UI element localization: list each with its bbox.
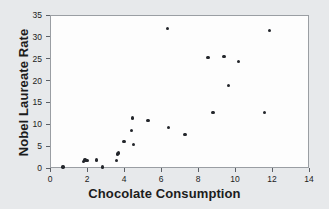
data-point [95,158,98,161]
x-tick-mark [87,168,88,172]
x-tick-label: 10 [225,174,245,184]
data-point [268,29,271,32]
y-tick-mark [46,146,50,147]
data-point [117,151,120,154]
y-tick-mark [46,102,50,103]
x-tick-mark [161,168,162,172]
x-tick-label: 0 [40,174,60,184]
x-tick-label: 4 [114,174,134,184]
data-point [206,56,209,59]
data-point [211,111,214,114]
y-tick-mark [46,36,50,37]
data-point [132,143,135,146]
scatter-chart-figure: 0246810121405101520253035 Chocolate Cons… [0,0,329,209]
y-tick-mark [46,58,50,59]
data-point [183,133,186,136]
y-tick-mark [46,124,50,125]
data-point [131,116,134,119]
x-axis-title: Chocolate Consumption [0,186,329,201]
x-tick-label: 6 [151,174,171,184]
plot-area [50,15,309,168]
x-tick-mark [309,168,310,172]
data-point [85,159,88,162]
x-tick-label: 2 [77,174,97,184]
x-tick-label: 14 [299,174,319,184]
data-point [61,165,64,168]
x-tick-mark [124,168,125,172]
x-tick-mark [272,168,273,172]
x-tick-mark [198,168,199,172]
data-point [222,55,225,58]
x-tick-mark [235,168,236,172]
data-point [101,165,104,168]
y-tick-mark [46,168,50,169]
y-axis-title: Nobel Laureate Rate [16,8,31,178]
x-tick-label: 12 [262,174,282,184]
x-tick-label: 8 [188,174,208,184]
x-tick-mark [50,168,51,172]
y-tick-mark [46,15,50,16]
data-point [122,140,125,143]
y-tick-mark [46,80,50,81]
